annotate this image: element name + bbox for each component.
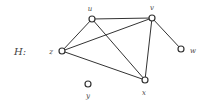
- graph-diagram: H: uvzwxy: [0, 0, 207, 110]
- node-label-u: u: [88, 5, 93, 13]
- node-v: [149, 15, 155, 21]
- node-w: [178, 46, 184, 52]
- node-u: [89, 16, 95, 22]
- node-label-y: y: [85, 92, 91, 100]
- node-x: [142, 77, 148, 83]
- edge-v-z: [62, 18, 152, 51]
- edge-v-w: [152, 18, 181, 49]
- node-z: [59, 48, 65, 54]
- edge-u-v: [92, 18, 152, 19]
- node-label-z: z: [48, 48, 53, 56]
- node-label-x: x: [142, 89, 146, 97]
- edge-u-z: [62, 19, 92, 51]
- edges: [62, 18, 181, 80]
- graph-name-label: H:: [13, 46, 26, 57]
- node-label-w: w: [190, 47, 196, 55]
- node-y: [85, 81, 91, 87]
- edge-v-x: [145, 18, 152, 80]
- node-label-v: v: [150, 4, 154, 12]
